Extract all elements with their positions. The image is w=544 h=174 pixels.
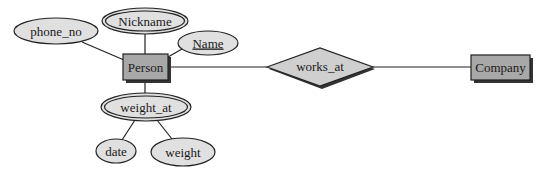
attribute-nickname-label: Nickname xyxy=(118,14,172,29)
attribute-weight[interactable]: weight xyxy=(151,138,215,166)
attribute-date-label: date xyxy=(105,144,127,159)
attribute-weight-at[interactable]: weight_at xyxy=(101,93,191,121)
edge-weight-at-weight xyxy=(157,120,172,139)
attribute-date[interactable]: date xyxy=(96,139,136,163)
edge-person-name xyxy=(168,49,182,57)
entity-person[interactable]: Person xyxy=(123,54,171,83)
relationship-works-at[interactable]: works_at xyxy=(267,48,375,89)
attribute-phone-no-label: phone_no xyxy=(30,24,81,39)
attribute-weight-label: weight xyxy=(165,145,201,160)
entity-company-label: Company xyxy=(475,60,526,75)
attribute-phone-no[interactable]: phone_no xyxy=(14,18,98,44)
entity-company[interactable]: Company xyxy=(471,55,533,83)
er-diagram: Nickname phone_no Name Person weight_at xyxy=(0,0,544,174)
attribute-name-label: Name xyxy=(192,36,223,51)
attribute-name[interactable]: Name xyxy=(178,31,238,55)
relationship-works-at-label: works_at xyxy=(296,59,344,74)
edges xyxy=(82,33,471,140)
edge-weight-at-date xyxy=(122,120,135,140)
attribute-weight-at-label: weight_at xyxy=(120,100,172,115)
edge-person-phone-no xyxy=(82,42,124,60)
attribute-nickname[interactable]: Nickname xyxy=(102,8,188,34)
entity-person-label: Person xyxy=(128,60,164,75)
